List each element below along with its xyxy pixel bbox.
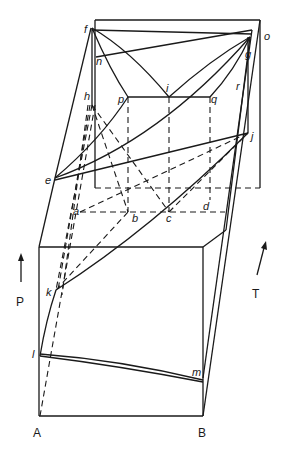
label-q: q [211, 93, 218, 105]
label-l: l [32, 348, 35, 360]
label-k: k [46, 286, 52, 298]
component-b-label: B [198, 426, 206, 440]
temperature-axis: T [252, 241, 267, 301]
front-box [39, 247, 203, 416]
label-m: m [192, 366, 201, 378]
label-r: r [236, 80, 241, 92]
label-i: i [166, 82, 169, 94]
pressure-label: P [16, 295, 24, 309]
temperature-label: T [252, 287, 260, 301]
component-a-label: A [33, 426, 41, 440]
label-c: c [166, 212, 172, 224]
pressure-axis: P [16, 253, 24, 309]
label-n: n [96, 55, 102, 67]
label-p: p [117, 93, 124, 105]
label-o: o [264, 30, 270, 42]
label-j: j [249, 130, 254, 142]
phase-diagram: f n o g i r h p q j e a b c d k l m P T … [0, 0, 284, 449]
label-f: f [84, 23, 88, 35]
label-h: h [84, 90, 90, 102]
label-b: b [132, 212, 138, 224]
label-a: a [73, 205, 79, 217]
label-d: d [203, 200, 210, 212]
liquidus-curves [40, 28, 252, 382]
label-g: g [245, 48, 252, 60]
label-e: e [45, 174, 51, 186]
